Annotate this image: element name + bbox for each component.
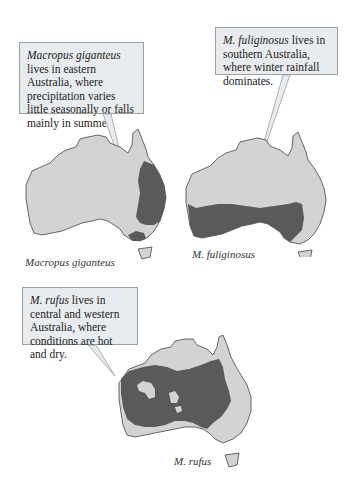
caption-rufus: M. rufus bbox=[174, 455, 211, 467]
australia-map-rufus bbox=[115, 335, 265, 475]
